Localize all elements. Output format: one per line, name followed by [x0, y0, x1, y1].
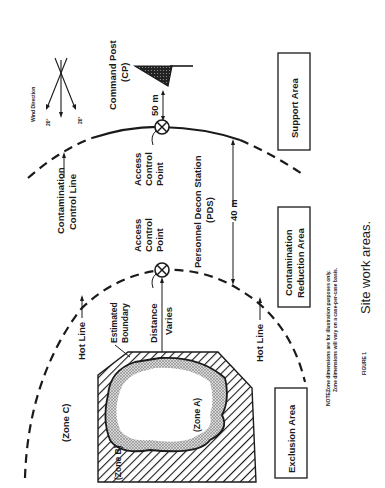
hot-line-lower-pointer: [258, 297, 262, 320]
access-control-point-outer-icon: [152, 120, 169, 145]
command-post-label: Command Post: [107, 39, 118, 110]
contamination-reduction-label-1: Contamination: [283, 229, 294, 296]
estimated-boundary-label-2: Boundary: [120, 303, 130, 343]
cp-distance-label: 50 m: [149, 94, 160, 116]
distance-varies-label-2: Varies: [163, 307, 174, 335]
hot-line-upper-label: Hot Line: [76, 322, 87, 360]
note-line-1: Zone dimensions are for illustration pur…: [325, 270, 331, 392]
command-post-flag-icon: [135, 66, 193, 86]
access-control-outer-3: Point: [154, 161, 165, 186]
figure-title: Site work areas.: [358, 221, 373, 314]
pds-width-label: 40 m: [228, 199, 239, 221]
distance-varies-label-1: Distance: [148, 303, 159, 343]
wind-direction-icon: [46, 58, 76, 118]
hot-line-lower-label: Hot Line: [254, 324, 265, 362]
wind-direction-label: Wind Direction: [30, 87, 36, 122]
zone-b-label: (Zone B): [113, 445, 123, 480]
access-control-inner-3: Point: [154, 227, 165, 252]
note-line-2: Zone dimensions will vary on a case-per-…: [332, 267, 338, 392]
zone-c-label: (Zone C): [60, 403, 71, 442]
pds-abbr: (PDS): [204, 197, 215, 223]
wind-angle-right: 20°: [77, 116, 83, 124]
access-control-inner-1: Access: [132, 219, 143, 252]
access-control-inner-2: Control: [143, 218, 154, 252]
contamination-control-label-1: Contamination: [55, 167, 66, 234]
wind-angle-left: 20°: [45, 118, 51, 126]
access-control-outer-2: Control: [143, 152, 154, 186]
access-control-point-inner-icon: [152, 263, 169, 288]
command-post-abbr: (CP): [119, 62, 130, 82]
exclusion-area-label: Exclusion Area: [286, 404, 297, 473]
contamination-control-label-2: Control Line: [67, 174, 78, 230]
figure-label: FIGURE 1: [361, 352, 367, 375]
zone-a-label: (Zone A): [192, 398, 202, 432]
contamination-reduction-label-2: Reduction Area: [295, 227, 306, 298]
contamination-control-line: [28, 127, 305, 178]
pds-label: Personnel Decon Station: [192, 155, 203, 268]
cp-distance-arrow: [161, 90, 165, 121]
support-area-label: Support Area: [289, 77, 300, 138]
access-control-outer-1: Access: [132, 153, 143, 186]
site-work-areas-diagram: Wind Direction 20° 20° Command Post (CP)…: [0, 0, 385, 488]
estimated-boundary-label-1: Estimated: [109, 302, 119, 343]
